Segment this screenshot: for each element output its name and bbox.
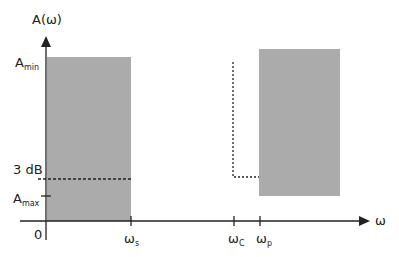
three-db-label: 3 dB [13, 162, 43, 177]
omega-c-label: ωC [228, 231, 245, 248]
omega-s-label: ωs [124, 231, 139, 248]
y-axis-label: A(ω) [32, 12, 62, 27]
filter-spec-diagram: A(ω) Amin 3 dB Amax 0 ωs ωC ωp ω [0, 0, 399, 257]
stopband-region [47, 57, 131, 221]
a-min-label: Amin [15, 55, 39, 72]
omega-p-label: ωp [256, 231, 272, 248]
y-axis-arrow-icon [41, 36, 51, 47]
cutoff-dotted-line [233, 62, 259, 177]
origin-label: 0 [34, 227, 42, 242]
x-axis-label: ω [375, 213, 386, 228]
passband-region [259, 49, 340, 196]
x-axis-arrow-icon [359, 216, 370, 226]
a-max-label: Amax [13, 191, 40, 208]
